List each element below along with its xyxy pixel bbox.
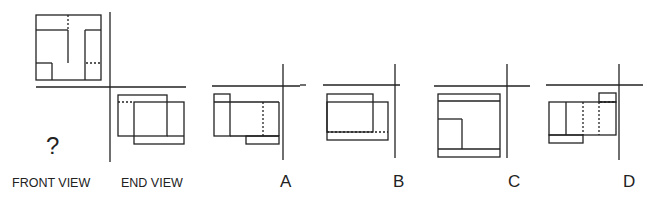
orthographic-views-diagram [0,0,657,204]
option-a-figure [212,64,300,160]
option-d-figure [546,64,643,160]
plan-view [36,15,101,80]
option-a-label[interactable]: A [280,172,291,192]
front-view-label: FRONT VIEW [12,176,90,190]
option-c-figure [434,64,530,158]
option-d-label[interactable]: D [623,172,635,192]
option-b-figure [300,64,400,158]
end-view-label: END VIEW [121,176,183,190]
option-c-label[interactable]: C [508,172,520,192]
unknown-front-view-marker: ? [46,132,59,160]
end-view [118,95,184,144]
option-b-label[interactable]: B [393,172,404,192]
